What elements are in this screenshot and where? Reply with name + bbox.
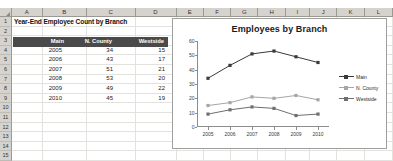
cell-main[interactable]: 49 xyxy=(106,85,113,91)
grid-cell[interactable] xyxy=(136,94,177,104)
grid-cell[interactable] xyxy=(12,55,43,65)
grid-cell[interactable] xyxy=(136,65,177,75)
grid-cell[interactable] xyxy=(43,103,87,113)
row-header[interactable]: 4 xyxy=(0,46,12,56)
cell-ncounty[interactable]: 21 xyxy=(158,66,165,72)
grid-cell[interactable] xyxy=(43,113,87,123)
grid-cell[interactable] xyxy=(87,123,136,133)
column-header-j[interactable]: J xyxy=(310,8,337,17)
cell-year[interactable]: 2007 xyxy=(49,66,62,72)
grid-cell[interactable] xyxy=(12,151,43,161)
grid-cell[interactable] xyxy=(12,103,43,113)
grid-cell[interactable] xyxy=(87,151,136,161)
legend-item[interactable]: Main xyxy=(339,71,378,82)
cell-main[interactable]: 34 xyxy=(106,47,113,53)
grid-cell[interactable] xyxy=(87,103,136,113)
grid-cell[interactable] xyxy=(204,151,231,161)
cell-main[interactable]: 43 xyxy=(106,56,113,62)
cell-year[interactable]: 2008 xyxy=(49,75,62,81)
column-header-h[interactable]: H xyxy=(258,8,285,17)
row-header[interactable]: 10 xyxy=(0,103,12,113)
grid-cell[interactable] xyxy=(136,55,177,65)
grid-cell[interactable] xyxy=(136,142,177,152)
grid-cell[interactable] xyxy=(87,113,136,123)
cell-year[interactable]: 2010 xyxy=(49,95,62,101)
cell-main[interactable]: 51 xyxy=(106,66,113,72)
grid-cell[interactable] xyxy=(136,132,177,142)
column-header-e[interactable]: E xyxy=(177,8,204,17)
row-header[interactable]: 15 xyxy=(0,151,12,161)
grid-cell[interactable] xyxy=(12,132,43,142)
grid-cell[interactable] xyxy=(136,123,177,133)
grid-cell[interactable] xyxy=(136,103,177,113)
column-header-c[interactable]: C xyxy=(87,8,136,17)
cell-main[interactable]: 53 xyxy=(106,75,113,81)
grid-cell[interactable] xyxy=(136,27,177,37)
x-axis-tick-label: 2010 xyxy=(312,131,323,137)
grid-cell[interactable] xyxy=(12,46,43,56)
grid-cell[interactable] xyxy=(87,27,136,37)
row-header[interactable]: 1 xyxy=(0,17,12,27)
grid-cell[interactable] xyxy=(12,142,43,152)
column-header-a[interactable]: A xyxy=(12,8,43,17)
row-header[interactable]: 13 xyxy=(0,132,12,142)
cell-ncounty[interactable]: 17 xyxy=(158,56,165,62)
grid-cell[interactable] xyxy=(286,151,310,161)
embedded-chart[interactable]: Employees by Branch 01020304050602005200… xyxy=(172,18,387,149)
grid-cell[interactable] xyxy=(43,142,87,152)
grid-cell[interactable] xyxy=(12,27,43,37)
column-header-i[interactable]: I xyxy=(286,8,310,17)
grid-cell[interactable] xyxy=(310,151,337,161)
grid-cell[interactable] xyxy=(43,27,87,37)
row-header[interactable]: 8 xyxy=(0,84,12,94)
grid-cell[interactable] xyxy=(12,123,43,133)
grid-cell[interactable] xyxy=(43,132,87,142)
grid-cell[interactable] xyxy=(12,65,43,75)
grid-cell[interactable] xyxy=(136,84,177,94)
grid-cell[interactable] xyxy=(136,75,177,85)
cell-year[interactable]: 2005 xyxy=(49,47,62,53)
row-header[interactable]: 9 xyxy=(0,94,12,104)
grid-cell[interactable] xyxy=(12,75,43,85)
row-header[interactable]: 11 xyxy=(0,113,12,123)
grid-cell[interactable] xyxy=(258,151,285,161)
grid-cell[interactable] xyxy=(337,151,364,161)
grid-cell[interactable] xyxy=(12,113,43,123)
row-header[interactable]: 2 xyxy=(0,27,12,37)
row-header[interactable]: 3 xyxy=(0,36,12,46)
grid-cell[interactable] xyxy=(87,142,136,152)
cell-ncounty[interactable]: 15 xyxy=(158,47,165,53)
row-header[interactable]: 12 xyxy=(0,123,12,133)
select-all-corner[interactable] xyxy=(0,8,12,17)
cell-ncounty[interactable]: 22 xyxy=(158,85,165,91)
grid-cell[interactable] xyxy=(136,151,177,161)
grid-cell[interactable] xyxy=(136,113,177,123)
cell-year[interactable]: 2009 xyxy=(49,85,62,91)
column-header-l[interactable]: L xyxy=(365,8,393,17)
grid-cell[interactable] xyxy=(365,151,393,161)
legend-item[interactable]: Westside xyxy=(339,93,378,104)
grid-cell[interactable] xyxy=(177,151,204,161)
grid-cell[interactable] xyxy=(136,17,177,27)
column-header-g[interactable]: G xyxy=(231,8,258,17)
row-header[interactable]: 5 xyxy=(0,55,12,65)
legend-item[interactable]: N. County xyxy=(339,82,378,93)
cell-year[interactable]: 2006 xyxy=(49,56,62,62)
row-header[interactable]: 14 xyxy=(0,142,12,152)
grid-cell[interactable] xyxy=(231,151,258,161)
row-header[interactable]: 7 xyxy=(0,75,12,85)
grid-cell[interactable] xyxy=(12,84,43,94)
grid-cell[interactable] xyxy=(87,132,136,142)
column-header-f[interactable]: F xyxy=(204,8,231,17)
cell-ncounty[interactable]: 19 xyxy=(158,95,165,101)
column-header-k[interactable]: K xyxy=(337,8,364,17)
grid-cell[interactable] xyxy=(12,94,43,104)
column-header-d[interactable]: D xyxy=(136,8,177,17)
cell-ncounty[interactable]: 20 xyxy=(158,75,165,81)
cell-main[interactable]: 45 xyxy=(106,95,113,101)
row-header[interactable]: 6 xyxy=(0,65,12,75)
grid-cell[interactable] xyxy=(43,151,87,161)
column-header-b[interactable]: B xyxy=(43,8,87,17)
grid-cell[interactable] xyxy=(136,46,177,56)
grid-cell[interactable] xyxy=(43,123,87,133)
